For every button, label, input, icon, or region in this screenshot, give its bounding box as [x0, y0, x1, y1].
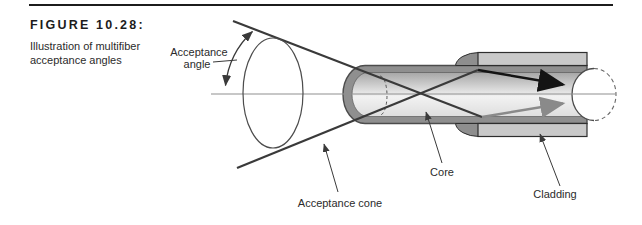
core-label: Core	[430, 166, 454, 178]
acceptance-cone-pointer-arrow	[324, 144, 338, 192]
figure-caption-line2: acceptance angles	[30, 54, 122, 66]
cladding-shoulder-bottom	[456, 124, 480, 137]
cladding-shoulder-top	[456, 53, 480, 66]
acceptance-angle-label-line1: Acceptance	[170, 46, 227, 58]
acceptance-angle-arc-arrow	[226, 32, 253, 86]
cladding-pointer-arrow	[540, 134, 560, 186]
figure-panel: FIGURE 10.28: Illustration of multifiber…	[0, 0, 642, 225]
acceptance-angle-pointer-line	[213, 60, 237, 62]
cladding-label: Cladding	[533, 188, 576, 200]
cladding-sleeve-bottom	[478, 124, 587, 137]
cladding-sleeve-top	[478, 53, 587, 66]
acceptance-cone-base-ellipse	[243, 38, 303, 148]
acceptance-cone-label: Acceptance cone	[298, 197, 382, 209]
fiber-acceptance-diagram: FIGURE 10.28: Illustration of multifiber…	[0, 0, 642, 225]
figure-caption-line1: Illustration of multifiber	[30, 40, 140, 52]
acceptance-angle-label-line2: angle	[184, 58, 211, 70]
figure-number-label: FIGURE 10.28:	[30, 18, 145, 32]
